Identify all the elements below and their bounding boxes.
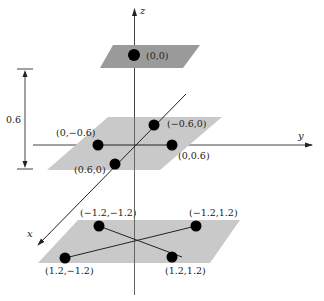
- point-1.2-1.2: [167, 252, 178, 263]
- point-neg1.2-neg1.2: [94, 221, 105, 232]
- point-neg0.6-0: [149, 120, 160, 131]
- x-axis-label: x: [27, 228, 33, 239]
- label-0-0.6: (0,0.6): [178, 150, 210, 161]
- z-axis-label: z: [139, 5, 146, 16]
- point-neg1.2-1.2: [191, 221, 202, 232]
- label-neg1.2-neg1.2: (−1.2,−1.2): [80, 207, 137, 218]
- layered-lattice-diagram: (−1.2,−1.2) (−1.2,1.2) (1.2,−1.2) (1.2,1…: [0, 0, 324, 301]
- point-0.6-0: [110, 159, 121, 170]
- point-0-0: [128, 49, 140, 61]
- label-0-neg0.6: (0,−0.6): [56, 127, 96, 138]
- spacing-arrowhead-down: [23, 161, 28, 168]
- label-0-0: (0,0): [146, 50, 169, 61]
- label-neg0.6-0: (−0.6,0): [167, 118, 207, 129]
- label-neg1.2-1.2: (−1.2,1.2): [189, 207, 238, 218]
- label-0.6-0: (0.6,0): [74, 164, 106, 175]
- spacing-label: 0.6: [6, 114, 21, 125]
- spacing-arrowhead-up: [23, 70, 28, 77]
- y-axis-label: y: [297, 130, 304, 141]
- point-0-0.6: [167, 140, 178, 151]
- point-0-neg0.6: [93, 140, 104, 151]
- label-1.2-neg1.2: (1.2,−1.2): [45, 265, 94, 276]
- point-1.2-neg1.2: [60, 253, 71, 264]
- label-1.2-1.2: (1.2,1.2): [165, 265, 206, 276]
